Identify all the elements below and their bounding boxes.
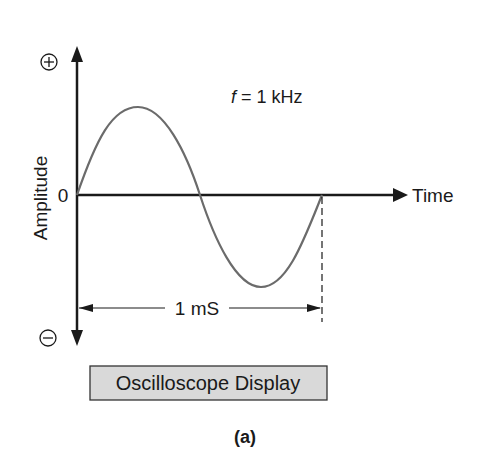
- period-label: 1 mS: [175, 298, 219, 319]
- down-arrow-icon: [71, 330, 83, 346]
- positive-icon: [41, 54, 57, 70]
- right-arrow-icon: [307, 304, 321, 312]
- origin-label: 0: [58, 185, 69, 206]
- y-axis-label: Amplitude: [30, 156, 51, 241]
- up-arrow-icon: [71, 46, 83, 62]
- x-axis: [77, 188, 408, 202]
- left-arrow-icon: [79, 304, 93, 312]
- frequency-label: f = 1 kHz: [231, 87, 303, 107]
- sine-waveform: [77, 107, 322, 287]
- oscilloscope-diagram: Amplitude 0 Time f = 1 kHz 1 mS Oscillos…: [0, 0, 498, 459]
- negative-icon: [40, 330, 56, 346]
- sublabel: (a): [234, 427, 256, 447]
- x-axis-label: Time: [412, 185, 454, 206]
- right-arrow-icon: [393, 188, 408, 202]
- caption-text: Oscilloscope Display: [116, 372, 301, 394]
